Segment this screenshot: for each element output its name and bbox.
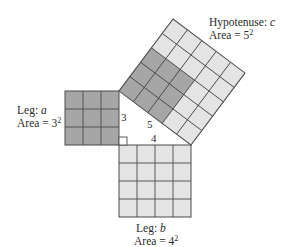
side-c-length: 5 [147,118,153,130]
leg-a-square [65,91,119,145]
side-b-length: 4 [151,132,157,144]
hypotenuse-label: Hypotenuse: c Area = 52 [209,16,275,42]
leg-b-square [119,145,191,217]
side-a-length: 3 [121,111,127,123]
leg-a-label: Leg: a Area = 32 [17,104,61,130]
leg-b-label: Leg: b Area = 42 [134,222,178,247]
right-angle-marker [119,137,127,145]
